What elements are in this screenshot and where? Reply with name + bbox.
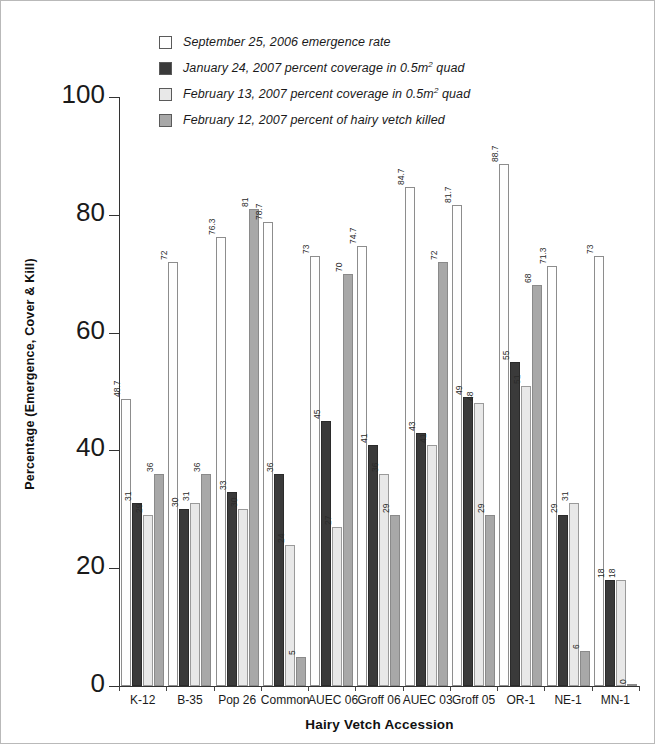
bar-item[interactable]: 55	[510, 362, 520, 686]
bar-item[interactable]: 31	[190, 503, 200, 686]
bar-item[interactable]: 36	[201, 474, 211, 686]
bar-item[interactable]: 81.7	[452, 205, 462, 686]
bar[interactable]	[405, 187, 415, 686]
bar[interactable]	[485, 515, 495, 686]
bar-item[interactable]: 30	[238, 509, 248, 686]
bar[interactable]	[321, 421, 331, 686]
bar[interactable]	[616, 580, 626, 686]
bar[interactable]	[274, 474, 284, 686]
bar[interactable]	[627, 684, 637, 686]
bar[interactable]	[532, 285, 542, 686]
bar-value-label: 84.7	[396, 169, 406, 186]
bar[interactable]	[121, 399, 131, 686]
bar-item[interactable]: 76.3	[216, 237, 226, 686]
bar[interactable]	[368, 445, 378, 686]
bar[interactable]	[168, 262, 178, 686]
bar[interactable]	[310, 256, 320, 686]
bar-item[interactable]: 31	[132, 503, 142, 686]
bar-item[interactable]: 73	[594, 256, 604, 686]
bar-value-label: 27	[323, 516, 333, 525]
bar-item[interactable]: 48.7	[121, 399, 131, 686]
bar[interactable]	[558, 515, 568, 686]
bar-item[interactable]: 33	[227, 492, 237, 686]
bar-item[interactable]: 6	[580, 651, 590, 686]
bar-value-label: 36	[145, 463, 155, 472]
bar-item[interactable]: 29	[485, 515, 495, 686]
bar-item[interactable]: 48	[474, 403, 484, 686]
bar-item[interactable]: 72	[168, 262, 178, 686]
bar-item[interactable]: 18	[616, 580, 626, 686]
x-tick-label: AUEC 03	[403, 693, 450, 707]
bar-item[interactable]: 18	[605, 580, 615, 686]
bar-item[interactable]: 0	[627, 684, 637, 686]
bar[interactable]	[580, 651, 590, 686]
bar[interactable]	[416, 433, 426, 686]
bar-item[interactable]: 41	[427, 445, 437, 686]
bar-item[interactable]: 5	[296, 657, 306, 686]
bar-item[interactable]: 29	[390, 515, 400, 686]
bar[interactable]	[190, 503, 200, 686]
bar[interactable]	[452, 205, 462, 686]
bar[interactable]	[227, 492, 237, 686]
bar[interactable]	[390, 515, 400, 686]
bar-item[interactable]: 36	[274, 474, 284, 686]
bar-group-bars: 88.7555168	[497, 97, 544, 686]
bar[interactable]	[521, 386, 531, 686]
bar[interactable]	[285, 545, 295, 686]
bar[interactable]	[594, 256, 604, 686]
bar-item[interactable]: 81	[249, 209, 259, 686]
bar[interactable]	[510, 362, 520, 686]
bar[interactable]	[427, 445, 437, 686]
y-tick-label: 60	[47, 315, 105, 346]
x-tick-mark	[214, 686, 215, 691]
bar[interactable]	[605, 580, 615, 686]
bar[interactable]	[154, 474, 164, 686]
bar[interactable]	[238, 509, 248, 686]
bar-item[interactable]: 31	[569, 503, 579, 686]
bar[interactable]	[499, 164, 509, 686]
bar-value-label: 29	[134, 504, 144, 513]
bar-item[interactable]: 24	[285, 545, 295, 686]
bar-item[interactable]: 29	[558, 515, 568, 686]
bar-item[interactable]: 51	[521, 386, 531, 686]
bar[interactable]	[547, 266, 557, 686]
bar[interactable]	[343, 274, 353, 686]
bar-value-label: 5	[287, 650, 297, 655]
bar[interactable]	[357, 246, 367, 686]
bar[interactable]	[474, 403, 484, 686]
x-tick-label: B-35	[166, 693, 213, 707]
bar-item[interactable]: 84.7	[405, 187, 415, 686]
bar[interactable]	[332, 527, 342, 686]
bar[interactable]	[263, 222, 273, 686]
bar[interactable]	[296, 657, 306, 686]
bar-item[interactable]: 74.7	[357, 246, 367, 686]
x-tick-label: NE-1	[544, 693, 591, 707]
bar-item[interactable]: 27	[332, 527, 342, 686]
bar-value-label: 36	[192, 463, 202, 472]
bar-item[interactable]: 68	[532, 285, 542, 686]
bar-item[interactable]: 49	[463, 397, 473, 686]
bar-item[interactable]: 29	[143, 515, 153, 686]
bar-item[interactable]: 36	[154, 474, 164, 686]
bar-value-label: 30	[229, 498, 239, 507]
bar-item[interactable]: 41	[368, 445, 378, 686]
bar[interactable]	[438, 262, 448, 686]
bar[interactable]	[249, 209, 259, 686]
bar[interactable]	[132, 503, 142, 686]
bar-item[interactable]: 43	[416, 433, 426, 686]
bar[interactable]	[143, 515, 153, 686]
bar[interactable]	[201, 474, 211, 686]
bar[interactable]	[216, 237, 226, 686]
bar[interactable]	[179, 509, 189, 686]
bar-item[interactable]: 78.7	[263, 222, 273, 686]
bar-item[interactable]: 45	[321, 421, 331, 686]
bar[interactable]	[463, 397, 473, 686]
bar-item[interactable]: 70	[343, 274, 353, 686]
bar[interactable]	[569, 503, 579, 686]
bar-item[interactable]: 73	[310, 256, 320, 686]
y-tick-mark	[109, 450, 119, 451]
bar-item[interactable]: 88.7	[499, 164, 509, 686]
bar-item[interactable]: 71.3	[547, 266, 557, 686]
bar-item[interactable]: 72	[438, 262, 448, 686]
bar-item[interactable]: 30	[179, 509, 189, 686]
